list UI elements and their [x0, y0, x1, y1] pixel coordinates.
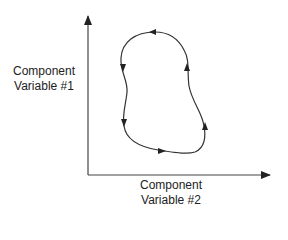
x-axis-label: Component Variable #2	[128, 178, 214, 208]
trajectory-arrow-left-upper-down-icon	[120, 64, 126, 72]
trajectory-arrow-right-upper-up-icon	[184, 63, 190, 71]
trajectory-arrow-left-lower-down-icon	[121, 119, 127, 127]
x-axis-label-line1: Component	[128, 178, 214, 193]
trajectory-arrow-top-left-icon	[149, 29, 156, 35]
limit-cycle-curve	[121, 32, 205, 153]
y-axis-label-line1: Component	[4, 64, 84, 79]
x-axis-label-line2: Variable #2	[128, 193, 214, 208]
y-axis-label: Component Variable #1	[4, 64, 84, 94]
trajectory-arrow-bottom-right-icon	[158, 148, 166, 154]
y-axis-label-line2: Variable #1	[4, 79, 84, 94]
